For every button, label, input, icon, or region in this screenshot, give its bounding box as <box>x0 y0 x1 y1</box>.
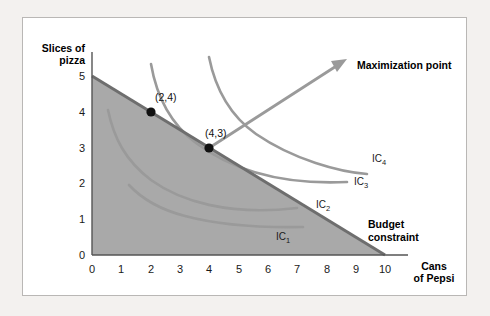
figure-panel <box>22 17 467 296</box>
figure-page: { "figure": { "background_color": "#f3f1… <box>0 0 490 316</box>
